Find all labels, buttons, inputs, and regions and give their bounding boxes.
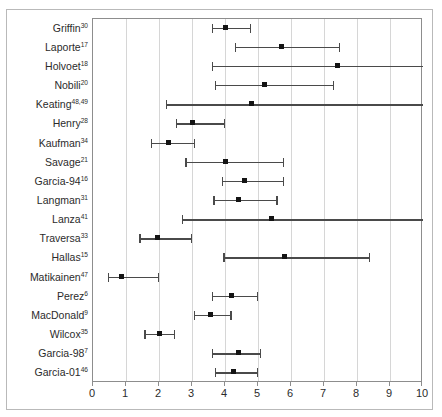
- forest-plot-figure: Griffin30Laporte17Holvoet18Nobili20Keati…: [0, 0, 442, 417]
- point-estimate-marker: [223, 159, 228, 164]
- x-tick-label: 8: [353, 388, 359, 399]
- x-axis: 012345678910: [92, 382, 422, 410]
- study-label-henry: Henry28: [10, 118, 88, 129]
- ci-cap-upper: [230, 311, 231, 320]
- study-label-macdonald: MacDonald9: [10, 310, 88, 321]
- ci-cap-lower: [144, 330, 145, 339]
- forest-row: [93, 39, 421, 57]
- ci-cap-lower: [166, 100, 167, 109]
- confidence-interval-line: [139, 238, 192, 239]
- point-estimate-marker: [231, 369, 236, 374]
- study-label-garcia-94: Garcia-9416: [10, 176, 88, 187]
- ci-cap-lower: [223, 253, 224, 262]
- x-tick-label: 7: [320, 388, 326, 399]
- forest-row: [93, 77, 421, 95]
- confidence-interval-line: [215, 372, 258, 373]
- ci-cap-lower: [212, 62, 213, 71]
- study-label-traversa: Traversa33: [10, 233, 88, 244]
- study-label-perez: Perez6: [10, 291, 88, 302]
- forest-row: [93, 154, 421, 172]
- study-reference-superscript: 41: [81, 213, 88, 220]
- study-name: Traversa: [40, 232, 81, 244]
- ci-cap-lower: [108, 273, 109, 282]
- study-reference-superscript: 6: [84, 289, 88, 296]
- ci-cap-upper: [369, 253, 370, 262]
- forest-row: [93, 269, 421, 287]
- study-label-holvoet: Holvoet18: [10, 61, 88, 72]
- study-name: Garcia-94: [35, 175, 81, 187]
- ci-cap-upper: [191, 234, 192, 243]
- ci-cap-lower: [212, 24, 213, 33]
- study-name: MacDonald: [31, 309, 84, 321]
- study-label-hallas: Hallas15: [10, 252, 88, 263]
- study-name: Laporte: [45, 41, 81, 53]
- study-reference-superscript: 20: [81, 79, 88, 86]
- forest-row: [93, 230, 421, 248]
- forest-row: [93, 307, 421, 325]
- confidence-interval-line: [212, 296, 258, 297]
- ci-cap-upper: [250, 24, 251, 33]
- ci-cap-lower: [213, 196, 214, 205]
- x-tick-mark: [92, 382, 93, 386]
- point-estimate-marker: [223, 25, 228, 30]
- point-estimate-marker: [155, 235, 160, 240]
- study-reference-superscript: 21: [81, 155, 88, 162]
- study-name: Hallas: [51, 251, 80, 263]
- study-label-kaufman: Kaufman34: [10, 138, 88, 149]
- x-tick-mark: [158, 382, 159, 386]
- ci-cap-lower: [182, 215, 183, 224]
- x-tick-mark: [224, 382, 225, 386]
- forest-row: [93, 364, 421, 382]
- ci-cap-upper: [174, 330, 175, 339]
- ci-cap-upper: [283, 158, 284, 167]
- study-reference-superscript: 28: [81, 117, 88, 124]
- forest-row: [93, 211, 421, 229]
- x-tick-mark: [389, 382, 390, 386]
- forest-row: [93, 20, 421, 38]
- study-name: Langman: [37, 194, 81, 206]
- x-tick-mark: [191, 382, 192, 386]
- point-estimate-marker: [208, 312, 213, 317]
- point-estimate-marker: [249, 101, 254, 106]
- x-tick-label: 6: [287, 388, 293, 399]
- study-reference-superscript: 30: [81, 21, 88, 28]
- study-reference-superscript: 48,49: [71, 98, 88, 105]
- confidence-interval-line: [212, 66, 423, 67]
- point-estimate-marker: [190, 120, 195, 125]
- study-name: Lanza: [52, 213, 81, 225]
- study-name: Holvoet: [45, 60, 81, 72]
- x-tick-mark: [125, 382, 126, 386]
- ci-cap-lower: [194, 311, 195, 320]
- study-label-matikainen: Matikainen47: [10, 272, 88, 283]
- ci-cap-upper: [194, 139, 195, 148]
- study-name: Griffin: [53, 22, 81, 34]
- confidence-interval-line: [235, 47, 341, 48]
- ci-cap-lower: [235, 43, 236, 52]
- study-reference-superscript: 9: [84, 308, 88, 315]
- point-estimate-marker: [335, 63, 340, 68]
- forest-row: [93, 58, 421, 76]
- point-estimate-marker: [157, 331, 162, 336]
- x-tick-label: 2: [155, 388, 161, 399]
- study-reference-superscript: 18: [81, 59, 88, 66]
- ci-cap-lower: [222, 177, 223, 186]
- study-label-column: Griffin30Laporte17Holvoet18Nobili20Keati…: [10, 18, 88, 382]
- point-estimate-marker: [229, 293, 234, 298]
- ci-cap-upper: [257, 292, 258, 301]
- x-tick-mark: [290, 382, 291, 386]
- x-tick-label: 5: [254, 388, 260, 399]
- ci-cap-lower: [185, 158, 186, 167]
- study-label-garcia-01: Garcia-0146: [10, 367, 88, 378]
- study-label-savage: Savage21: [10, 157, 88, 168]
- x-tick-mark: [421, 382, 422, 386]
- study-reference-superscript: 46: [81, 366, 88, 373]
- study-reference-superscript: 31: [81, 194, 88, 201]
- forest-row: [93, 249, 421, 267]
- study-label-wilcox: Wilcox35: [10, 329, 88, 340]
- forest-row: [93, 326, 421, 344]
- point-estimate-marker: [119, 274, 124, 279]
- forest-row: [93, 115, 421, 133]
- study-label-garcia-98: Garcia-987: [10, 348, 88, 359]
- forest-row: [93, 192, 421, 210]
- point-estimate-marker: [236, 350, 241, 355]
